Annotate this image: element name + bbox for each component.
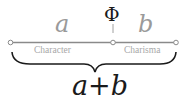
golden-ratio-diagram: Φ a b Character Charisma a+b [0,0,183,103]
variable-b: b [138,10,153,38]
segment-b-label: Charisma [124,45,160,55]
segment-a-label: Character [34,45,71,55]
endpoint-left-marker [8,40,13,45]
variable-a: a [55,10,69,38]
total-label: a+b [72,70,128,101]
phi-symbol: Φ [104,3,120,25]
endpoint-right-marker [174,40,179,45]
total-brace [12,52,176,72]
division-point-marker [111,40,116,45]
